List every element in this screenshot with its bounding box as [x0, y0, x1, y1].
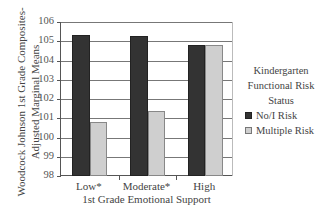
- plot-area: [60, 22, 233, 176]
- legend-title: Kindergarten Functional Risk Status: [240, 63, 322, 108]
- x-axis-title: 1st Grade Emotional Support: [60, 193, 233, 205]
- bar-high-no-risk: [188, 45, 206, 176]
- y-tick-mark: [57, 22, 61, 23]
- y-tick-mark: [57, 41, 61, 42]
- gridline: [61, 22, 232, 23]
- legend-title-line-2: Functional Risk: [240, 78, 322, 93]
- y-tick-mark: [57, 157, 61, 158]
- y-tick-label: 101: [24, 111, 54, 122]
- y-tick-label: 100: [24, 131, 54, 142]
- y-tick-mark: [57, 61, 61, 62]
- y-tick-label: 106: [24, 15, 54, 26]
- legend-label: No/I Risk: [256, 108, 297, 123]
- y-tick-label: 105: [24, 34, 54, 45]
- y-tick-label: 102: [24, 92, 54, 103]
- y-tick-label: 104: [24, 54, 54, 65]
- bar-high-multiple-risk: [205, 45, 223, 176]
- bar-low-multiple-risk: [90, 122, 108, 176]
- y-tick-label: 99: [24, 150, 54, 161]
- y-tick-mark: [57, 80, 61, 81]
- legend-label: Multiple Risk: [256, 123, 314, 138]
- legend: Kindergarten Functional Risk Status No/I…: [240, 63, 322, 138]
- legend-title-line-3: Status: [240, 93, 322, 108]
- y-tick-label: 103: [24, 73, 54, 84]
- legend-item-no-risk: No/I Risk: [245, 108, 322, 123]
- y-tick-label: 98: [24, 169, 54, 180]
- bar-moderate-multiple-risk: [148, 111, 166, 176]
- y-tick-mark: [57, 99, 61, 100]
- x-category-label: High: [169, 180, 239, 192]
- legend-swatch-light: [245, 127, 252, 134]
- bar-moderate-no-risk: [130, 36, 148, 176]
- legend-swatch-dark: [245, 112, 252, 119]
- legend-item-multiple-risk: Multiple Risk: [245, 123, 322, 138]
- y-tick-mark: [57, 138, 61, 139]
- bar-low-no-risk: [72, 35, 90, 176]
- y-tick-mark: [57, 118, 61, 119]
- y-tick-mark: [57, 176, 61, 177]
- legend-title-line-1: Kindergarten: [240, 63, 322, 78]
